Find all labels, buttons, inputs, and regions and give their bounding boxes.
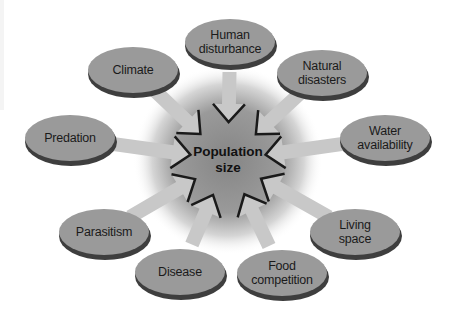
factor-label-food-competition: Food competition	[251, 259, 313, 287]
factor-label-climate: Climate	[113, 63, 154, 77]
factor-label-disease: Disease	[158, 265, 202, 279]
factor-label-natural-disasters: Natural disasters	[298, 59, 346, 87]
factor-label-predation: Predation	[44, 131, 96, 145]
center-label-population-size: Population size	[193, 144, 263, 176]
population-size-diagram: Human disturbanceClimateNatural disaster…	[0, 0, 457, 322]
factor-label-living-space: Living space	[339, 218, 371, 246]
factor-label-water-availability: Water availability	[357, 124, 412, 152]
factor-label-parasitism: Parasitism	[76, 225, 132, 239]
factor-label-human-disturbance: Human disturbance	[199, 28, 261, 56]
